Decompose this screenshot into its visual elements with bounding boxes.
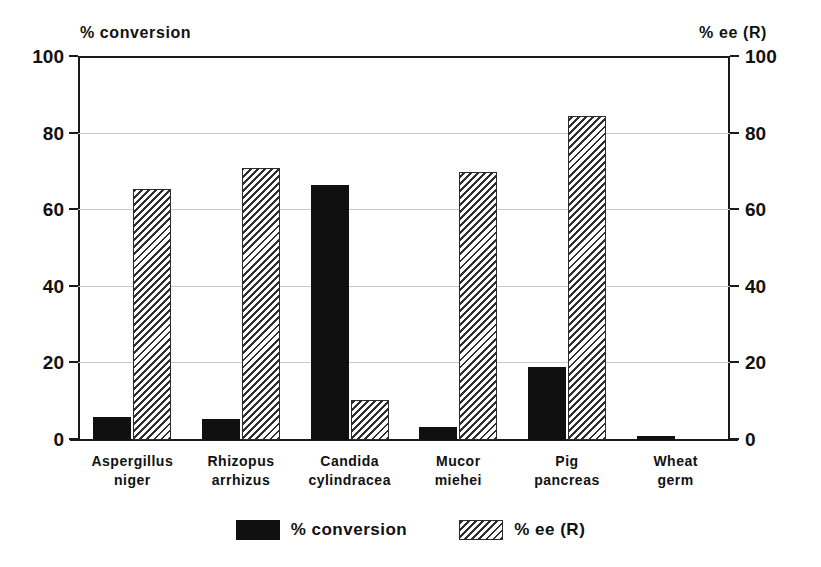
legend-label: % ee (R) [514, 520, 585, 540]
y-tick-right [730, 208, 739, 210]
bar [93, 417, 131, 440]
y-tick-label-right: 20 [745, 353, 766, 372]
y-tick-label-left: 0 [53, 430, 64, 449]
legend-item: % ee (R) [459, 520, 585, 540]
bar [242, 168, 280, 440]
y-tick-label-right: 60 [745, 200, 766, 219]
category-label-line: miehei [404, 471, 513, 490]
y-tick-left [69, 132, 78, 134]
bar [419, 427, 457, 440]
category-label-line: arrhizus [187, 471, 296, 490]
legend-swatch [236, 520, 280, 540]
y-tick-left [69, 285, 78, 287]
y-tick-left [69, 208, 78, 210]
y-tick-label-right: 80 [745, 124, 766, 143]
y-tick-label-left: 40 [43, 277, 64, 296]
y-tick-label-left: 60 [43, 200, 64, 219]
category-label-line: niger [78, 471, 187, 490]
category-label: Rhizopusarrhizus [187, 452, 296, 491]
category-label-line: cylindracea [295, 471, 404, 490]
category-label-line: pancreas [513, 471, 622, 490]
category-label: Pigpancreas [513, 452, 622, 491]
legend-label: % conversion [291, 520, 408, 540]
chart-legend: % conversion% ee (R) [0, 520, 821, 540]
y-tick-left [69, 438, 78, 440]
y-tick-right [730, 132, 739, 134]
bar-group [187, 57, 296, 440]
right-axis-caption: % ee (R) [699, 24, 767, 42]
category-label: Wheatgerm [621, 452, 730, 491]
bar [459, 172, 497, 440]
y-tick-label-right: 0 [745, 430, 756, 449]
bar-group [513, 57, 622, 440]
y-tick-label-left: 20 [43, 353, 64, 372]
chart-figure: % conversion % ee (R) 020406080100 02040… [0, 0, 821, 567]
category-label: Aspergillusniger [78, 452, 187, 491]
category-label-line: germ [621, 471, 730, 490]
bar [202, 419, 240, 440]
category-label-line: Wheat [621, 452, 730, 471]
y-tick-left [69, 55, 78, 57]
bar-group [295, 57, 404, 440]
bar-group [78, 57, 187, 440]
y-tick-right [730, 285, 739, 287]
bar [568, 116, 606, 440]
category-label-line: Mucor [404, 452, 513, 471]
category-label-line: Aspergillus [78, 452, 187, 471]
y-tick-right [730, 438, 739, 440]
y-tick-label-right: 100 [745, 47, 777, 66]
legend-swatch [459, 520, 503, 540]
y-tick-left [69, 361, 78, 363]
y-tick-right [730, 361, 739, 363]
plot-area: 020406080100 020406080100 [78, 57, 730, 440]
category-label: Mucormiehei [404, 452, 513, 491]
y-tick-label-left: 100 [32, 47, 64, 66]
bar [637, 436, 675, 440]
y-tick-label-right: 40 [745, 277, 766, 296]
bar-group [621, 57, 730, 440]
y-tick-label-left: 80 [43, 124, 64, 143]
bar [351, 400, 389, 440]
bar [528, 367, 566, 440]
bar [311, 185, 349, 440]
category-label-line: Candida [295, 452, 404, 471]
category-label-line: Pig [513, 452, 622, 471]
category-label: Candidacylindracea [295, 452, 404, 491]
left-axis-caption: % conversion [80, 24, 191, 42]
bar [133, 189, 171, 440]
legend-item: % conversion [236, 520, 408, 540]
y-tick-right [730, 55, 739, 57]
category-label-line: Rhizopus [187, 452, 296, 471]
bar-group [404, 57, 513, 440]
